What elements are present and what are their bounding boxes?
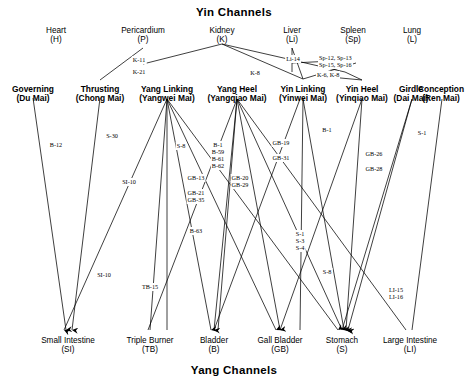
- node-pericardium[interactable]: Pericardium (P): [121, 26, 165, 44]
- point-label-si-10-upper: SI-10: [121, 178, 137, 186]
- node-liver-name: Liver: [283, 26, 301, 35]
- node-bladder[interactable]: Bladder (B): [200, 336, 228, 354]
- node-triple-burner-name: Triple Burner: [126, 336, 173, 345]
- point-label-k-8: K-8: [249, 69, 261, 77]
- point-label-s-8-lower: S-8: [322, 268, 333, 276]
- point-label-gb-19: GB-19: [272, 139, 291, 147]
- point-label-s-1-right: S-1: [417, 129, 428, 137]
- edge-group-lower: [33, 98, 442, 330]
- node-liver-abbr: (Li): [283, 35, 301, 44]
- point-label-b-63: B-63: [189, 227, 203, 235]
- point-label-gb-13: GB-13: [187, 174, 206, 182]
- point-label-k-11: K-11: [132, 56, 147, 64]
- node-liver[interactable]: Liver (Li): [283, 26, 301, 44]
- node-thrusting-vessel[interactable]: Thrusting (Chong Mai): [76, 85, 124, 104]
- point-label-gb-26: GB-26: [365, 150, 384, 158]
- connection-lines: [0, 0, 467, 384]
- node-thrusting-alt: (Chong Mai): [76, 94, 124, 103]
- node-conception-alt: (Ren Mai): [418, 94, 464, 103]
- point-label-s-8: S-8: [176, 142, 187, 150]
- node-large-intestine[interactable]: Large Intestine (LI): [383, 336, 437, 354]
- node-bladder-abbr: (B): [200, 345, 228, 354]
- node-stomach-abbr: (S): [326, 345, 358, 354]
- point-label-b-62: B-62: [211, 162, 225, 170]
- node-gall-bladder-name: Gall Bladder: [257, 336, 302, 345]
- point-label-gb-35: GB-35: [187, 196, 206, 204]
- node-yang-heel-vessel[interactable]: Yang Heel (Yangqiao Mai): [207, 85, 266, 104]
- node-spleen-name: Spleen: [340, 26, 366, 35]
- node-yang-linking-vessel[interactable]: Yang Linking (Yangwei Mai): [139, 85, 194, 104]
- node-pericardium-abbr: (P): [121, 35, 165, 44]
- node-bladder-name: Bladder: [200, 336, 228, 345]
- node-conception-vessel[interactable]: Conception (Ren Mai): [418, 85, 464, 104]
- node-stomach-name: Stomach: [326, 336, 358, 345]
- point-label-tb-15: TB-15: [141, 283, 159, 291]
- node-stomach[interactable]: Stomach (S): [326, 336, 358, 354]
- node-spleen-abbr: (Sp): [340, 35, 366, 44]
- node-governing-alt: (Du Mai): [12, 94, 54, 103]
- node-kidney-abbr: (K): [209, 35, 234, 44]
- point-label-sp-15-16: Sp-15, Sp-16: [318, 61, 353, 69]
- node-kidney[interactable]: Kidney (K): [209, 26, 234, 44]
- point-label-gb-31: GB-31: [272, 154, 291, 162]
- point-label-li-16: LI-16: [388, 293, 404, 301]
- node-gall-bladder[interactable]: Gall Bladder (GB): [257, 336, 302, 354]
- node-yin-heel-vessel[interactable]: Yin Heel (Yinqiao Mai): [336, 85, 388, 104]
- point-label-s-30: S-30: [105, 132, 119, 140]
- node-small-intestine-abbr: (SI): [41, 345, 95, 354]
- node-small-intestine[interactable]: Small Intestine (SI): [41, 336, 95, 354]
- node-heart[interactable]: Heart (H): [46, 26, 66, 44]
- point-label-k-21: K-21: [132, 68, 147, 76]
- channel-diagram: Yin Channels Yang Channels: [0, 0, 467, 384]
- point-label-b-12: B-12: [49, 141, 63, 149]
- point-label-k-6-k-8: K-6, K-8: [316, 71, 340, 79]
- point-label-li-14: Li-14: [285, 55, 301, 63]
- node-small-intestine-name: Small Intestine: [41, 336, 95, 345]
- point-label-si-10-lower: SI-10: [96, 271, 112, 279]
- point-label-gb-28: GB-28: [365, 165, 384, 173]
- node-yin-heel-alt: (Yinqiao Mai): [336, 94, 388, 103]
- node-yin-linking-vessel[interactable]: Yin Linking (Yinwei Mai): [279, 85, 327, 104]
- point-label-b-1-right: B-1: [321, 126, 332, 134]
- node-lung[interactable]: Lung (L): [403, 26, 421, 44]
- node-triple-burner[interactable]: Triple Burner (TB): [126, 336, 173, 354]
- node-pericardium-name: Pericardium: [121, 26, 165, 35]
- node-large-intestine-name: Large Intestine: [383, 336, 437, 345]
- node-yang-linking-alt: (Yangwei Mai): [139, 94, 194, 103]
- node-lung-abbr: (L): [403, 35, 421, 44]
- node-kidney-name: Kidney: [209, 26, 234, 35]
- point-label-s-4: S-4: [295, 244, 306, 252]
- node-yang-heel-alt: (Yangqiao Mai): [207, 94, 266, 103]
- node-triple-burner-abbr: (TB): [126, 345, 173, 354]
- node-yin-linking-alt: (Yinwei Mai): [279, 94, 327, 103]
- node-governing-vessel[interactable]: Governing (Du Mai): [12, 85, 54, 104]
- node-spleen[interactable]: Spleen (Sp): [340, 26, 366, 44]
- node-large-intestine-abbr: (LI): [383, 345, 437, 354]
- node-heart-abbr: (H): [46, 35, 66, 44]
- node-gall-bladder-abbr: (GB): [257, 345, 302, 354]
- node-lung-name: Lung: [403, 26, 421, 35]
- point-label-gb-29: GB-29: [231, 181, 250, 189]
- node-heart-name: Heart: [46, 26, 66, 35]
